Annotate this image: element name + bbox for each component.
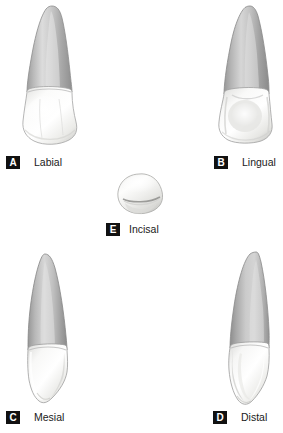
label-lingual: Lingual	[242, 156, 276, 169]
badge-letter-d: D	[213, 411, 227, 424]
caption-distal: D Distal	[213, 411, 267, 424]
caption-labial: A Labial	[6, 156, 62, 169]
view-panel-incisal	[112, 170, 172, 220]
label-labial: Labial	[34, 156, 62, 169]
badge-letter-c: C	[6, 411, 20, 424]
tooth-incisal-view	[112, 170, 172, 220]
view-panel-labial	[8, 4, 118, 149]
view-panel-mesial	[14, 252, 94, 407]
label-incisal: Incisal	[129, 223, 159, 236]
tooth-distal-view	[216, 250, 283, 408]
view-panel-distal	[216, 250, 283, 408]
badge-letter-a: A	[6, 156, 20, 169]
caption-lingual: B Lingual	[214, 156, 276, 169]
tooth-mesial-view	[14, 252, 94, 407]
tooth-views-figure: A Labial	[0, 0, 283, 433]
tooth-labial-view	[8, 4, 118, 149]
view-panel-lingual	[210, 4, 283, 149]
tooth-lingual-view	[210, 4, 283, 149]
caption-mesial: C Mesial	[6, 411, 64, 424]
caption-incisal: E Incisal	[106, 223, 159, 236]
badge-letter-b: B	[214, 156, 228, 169]
label-mesial: Mesial	[34, 411, 64, 424]
label-distal: Distal	[241, 411, 267, 424]
badge-letter-e: E	[106, 223, 120, 236]
